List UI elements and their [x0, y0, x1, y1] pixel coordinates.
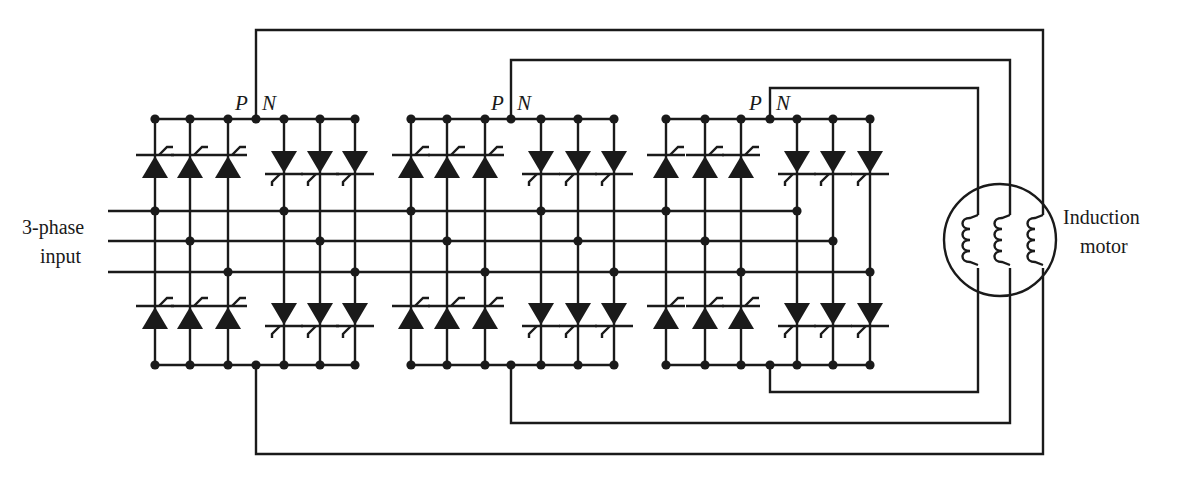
- thyristor-gate: [858, 174, 866, 186]
- thyristor-down-icon: [820, 151, 846, 173]
- junction-dot: [480, 114, 489, 123]
- thyristor-gate: [272, 174, 280, 186]
- junction-dot: [609, 267, 618, 276]
- winding-coil-icon: [1028, 215, 1044, 265]
- thyristor-down-icon: [820, 303, 846, 325]
- junction-dot: [350, 267, 359, 276]
- junction-dot: [279, 114, 288, 123]
- thyristor-gate: [343, 174, 351, 186]
- junction-dot: [480, 360, 489, 369]
- junction-dot: [406, 360, 415, 369]
- junction-dot: [736, 114, 745, 123]
- n-label-2: N: [516, 91, 532, 115]
- junction-dot: [251, 114, 260, 123]
- output-wire-bottom: [511, 268, 1010, 423]
- junction-dot: [736, 267, 745, 276]
- thyristor-gate: [821, 174, 829, 186]
- junction-dot: [223, 114, 232, 123]
- junction-dot: [506, 114, 515, 123]
- junction-dot: [223, 267, 232, 276]
- junction-dot: [573, 114, 582, 123]
- thyristor-down-icon: [565, 303, 591, 325]
- p-label-3: P: [748, 91, 762, 115]
- thyristor-gate: [785, 174, 793, 186]
- thyristor-down-icon: [342, 303, 368, 325]
- junction-dot: [661, 360, 670, 369]
- thyristor-gate: [566, 174, 574, 186]
- junction-dot: [865, 360, 874, 369]
- junction-dot: [661, 114, 670, 123]
- junction-dot: [315, 114, 324, 123]
- thyristor-gate: [308, 174, 316, 186]
- junction-dot: [185, 236, 194, 245]
- junction-dot: [185, 360, 194, 369]
- thyristor-gate: [821, 326, 829, 338]
- thyristor-gate: [602, 326, 610, 338]
- junction-dot: [792, 360, 801, 369]
- junction-dot: [150, 360, 159, 369]
- thyristor-up-icon: [142, 307, 168, 329]
- thyristor-up-icon: [728, 307, 754, 329]
- junction-dot: [536, 114, 545, 123]
- motor-label-line1: Induction: [1063, 206, 1140, 228]
- junction-dot: [573, 360, 582, 369]
- thyristor-up-icon: [177, 307, 203, 329]
- junction-dot: [315, 236, 324, 245]
- thyristor-down-icon: [857, 151, 883, 173]
- thyristor-gate: [566, 326, 574, 338]
- output-wire-bottom: [770, 268, 978, 392]
- thyristor-up-icon: [728, 156, 754, 178]
- output-wire-bottom: [256, 268, 1043, 454]
- junction-dot: [150, 114, 159, 123]
- junction-dot: [442, 114, 451, 123]
- thyristor-up-icon: [177, 156, 203, 178]
- cycloconverter-diagram: 3-phase input Induction motor P N P N P …: [0, 0, 1180, 483]
- junction-dot: [700, 114, 709, 123]
- junction-dot: [736, 360, 745, 369]
- thyristor-up-icon: [472, 156, 498, 178]
- p-label-2: P: [490, 91, 504, 115]
- thyristor-down-icon: [307, 151, 333, 173]
- thyristor-up-icon: [653, 156, 679, 178]
- thyristor-up-icon: [653, 307, 679, 329]
- thyristor-down-icon: [271, 303, 297, 325]
- junction-dot: [700, 236, 709, 245]
- junction-dot: [350, 114, 359, 123]
- thyristor-gate: [308, 326, 316, 338]
- thyristor-down-icon: [528, 151, 554, 173]
- junction-dot: [406, 206, 415, 215]
- junction-dot: [480, 267, 489, 276]
- junction-dot: [828, 114, 837, 123]
- thyristor-up-icon: [434, 307, 460, 329]
- thyristor-up-icon: [472, 307, 498, 329]
- junction-dot: [765, 360, 774, 369]
- input-label-line2: input: [40, 245, 82, 268]
- p-label-1: P: [234, 91, 248, 115]
- junction-dot: [609, 114, 618, 123]
- thyristor-gate: [529, 174, 537, 186]
- thyristor-down-icon: [784, 151, 810, 173]
- junction-dot: [185, 114, 194, 123]
- thyristor-up-icon: [398, 307, 424, 329]
- input-label-line1: 3-phase: [22, 216, 84, 239]
- junction-dot: [315, 360, 324, 369]
- junction-dot: [279, 360, 288, 369]
- output-wire-top: [511, 60, 1010, 215]
- thyristor-down-icon: [857, 303, 883, 325]
- thyristor-up-icon: [692, 156, 718, 178]
- junction-dot: [223, 360, 232, 369]
- junction-dot: [150, 206, 159, 215]
- thyristor-down-icon: [528, 303, 554, 325]
- junction-dot: [442, 360, 451, 369]
- thyristor-up-icon: [215, 156, 241, 178]
- thyristor-down-icon: [601, 151, 627, 173]
- junction-dot: [865, 267, 874, 276]
- junction-dot: [406, 114, 415, 123]
- thyristor-gate: [343, 326, 351, 338]
- thyristor-down-icon: [307, 303, 333, 325]
- thyristor-up-icon: [692, 307, 718, 329]
- junction-dot: [279, 206, 288, 215]
- junction-dot: [765, 114, 774, 123]
- thyristor-down-icon: [784, 303, 810, 325]
- induction-motor-symbol: [944, 184, 1056, 296]
